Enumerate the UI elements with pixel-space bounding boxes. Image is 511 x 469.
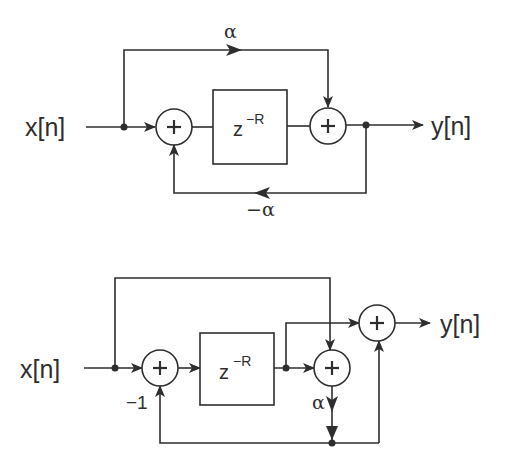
top-input-label: x[n] xyxy=(25,113,65,141)
top-feedback-gain: −α xyxy=(246,198,275,220)
block-diagrams: x[n] α z −R y xyxy=(0,0,511,469)
bottom-branch-gain: α xyxy=(312,391,325,413)
top-adder-2 xyxy=(310,108,346,144)
bottom-adder-a xyxy=(142,350,178,386)
top-delay-block: z −R xyxy=(213,90,287,164)
bottom-feedback-junction xyxy=(329,440,336,447)
top-feedforward-gain: α xyxy=(224,20,237,42)
bottom-output-label: y[n] xyxy=(440,310,480,338)
top-output-label: y[n] xyxy=(431,112,471,140)
top-diagram: x[n] α z −R y xyxy=(25,20,471,220)
bottom-input-label: x[n] xyxy=(20,355,60,383)
bottom-delay-exponent: −R xyxy=(233,353,251,369)
top-adder-1 xyxy=(156,109,192,145)
bottom-branch-arrow-2-icon xyxy=(326,426,338,440)
bottom-feedback-gain: −1 xyxy=(126,392,148,413)
bottom-adder-c xyxy=(359,305,395,341)
bottom-delay-block: z −R xyxy=(200,333,274,405)
top-delay-exponent: −R xyxy=(246,111,264,127)
bottom-delay-base: z xyxy=(219,361,229,383)
bottom-adder-b xyxy=(314,350,350,386)
bottom-diagram: x[n] z −R xyxy=(20,278,480,447)
top-delay-base: z xyxy=(233,118,243,140)
